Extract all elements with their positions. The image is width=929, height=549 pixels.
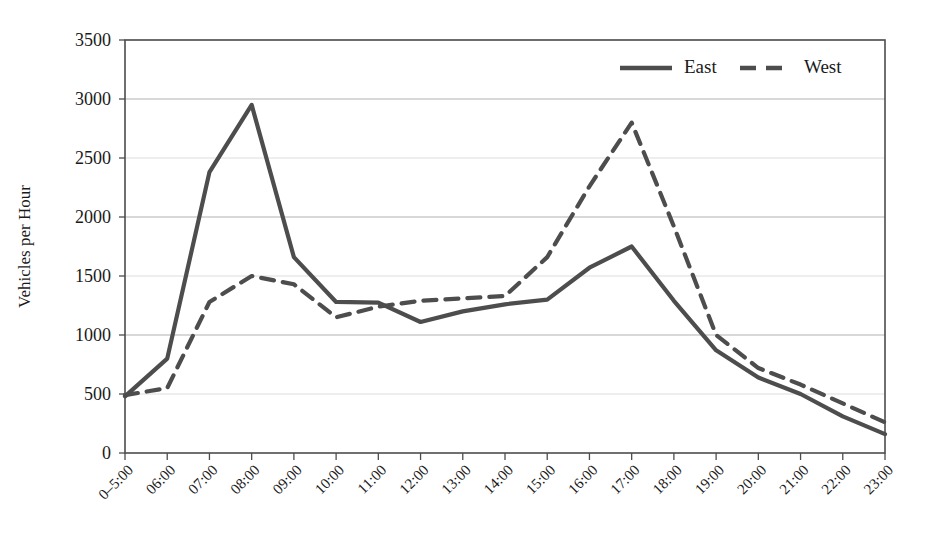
x-tick-label: 09:00	[270, 462, 305, 497]
x-tick-label: 20:00	[734, 462, 769, 497]
gridlines	[125, 40, 885, 394]
data-series	[125, 105, 885, 434]
y-axis-title-text: Vehicles per Hour	[15, 185, 34, 308]
chart-canvas: 0500100015002000250030003500 0–5:0006:00…	[0, 0, 929, 549]
x-tick-label: 07:00	[185, 462, 220, 497]
x-tick-label: 23:00	[861, 462, 896, 497]
series-line-east	[125, 105, 885, 434]
y-axis-title: Vehicles per Hour	[15, 185, 34, 308]
x-tick-label: 10:00	[312, 462, 347, 497]
x-axis-tick-labels: 0–5:0006:0007:0008:0009:0010:0011:0012:0…	[95, 462, 896, 503]
y-tick-label: 1000	[75, 325, 111, 345]
plot-frame	[125, 40, 885, 453]
y-tick-label: 2000	[75, 207, 111, 227]
x-tick-label: 18:00	[650, 462, 685, 497]
chart-legend: EastWest	[620, 56, 842, 77]
legend-label-east: East	[684, 56, 717, 77]
x-tick-label: 06:00	[143, 462, 178, 497]
y-tick-label: 3000	[75, 89, 111, 109]
y-tick-label: 1500	[75, 266, 111, 286]
x-tick-label: 14:00	[481, 462, 516, 497]
x-tick-label: 08:00	[227, 462, 262, 497]
legend-label-west: West	[804, 56, 842, 77]
y-axis-ticks	[119, 40, 125, 453]
x-tick-label: 12:00	[396, 462, 431, 497]
x-tick-label: 15:00	[523, 462, 558, 497]
y-tick-label: 0	[102, 443, 111, 463]
line-chart: 0500100015002000250030003500 0–5:0006:00…	[0, 0, 929, 549]
x-tick-label: 22:00	[818, 462, 853, 497]
x-tick-label: 19:00	[692, 462, 727, 497]
y-tick-label: 500	[84, 384, 111, 404]
y-tick-label: 3500	[75, 30, 111, 50]
y-tick-label: 2500	[75, 148, 111, 168]
x-tick-label: 11:00	[354, 462, 389, 497]
series-line-west	[125, 123, 885, 423]
x-axis-ticks	[125, 453, 885, 460]
x-tick-label: 21:00	[776, 462, 811, 497]
plot-area-border	[125, 40, 885, 453]
x-tick-label: 13:00	[438, 462, 473, 497]
x-tick-label: 16:00	[565, 462, 600, 497]
x-tick-label: 17:00	[607, 462, 642, 497]
x-tick-label: 0–5:00	[95, 462, 136, 503]
y-axis-tick-labels: 0500100015002000250030003500	[75, 30, 111, 463]
